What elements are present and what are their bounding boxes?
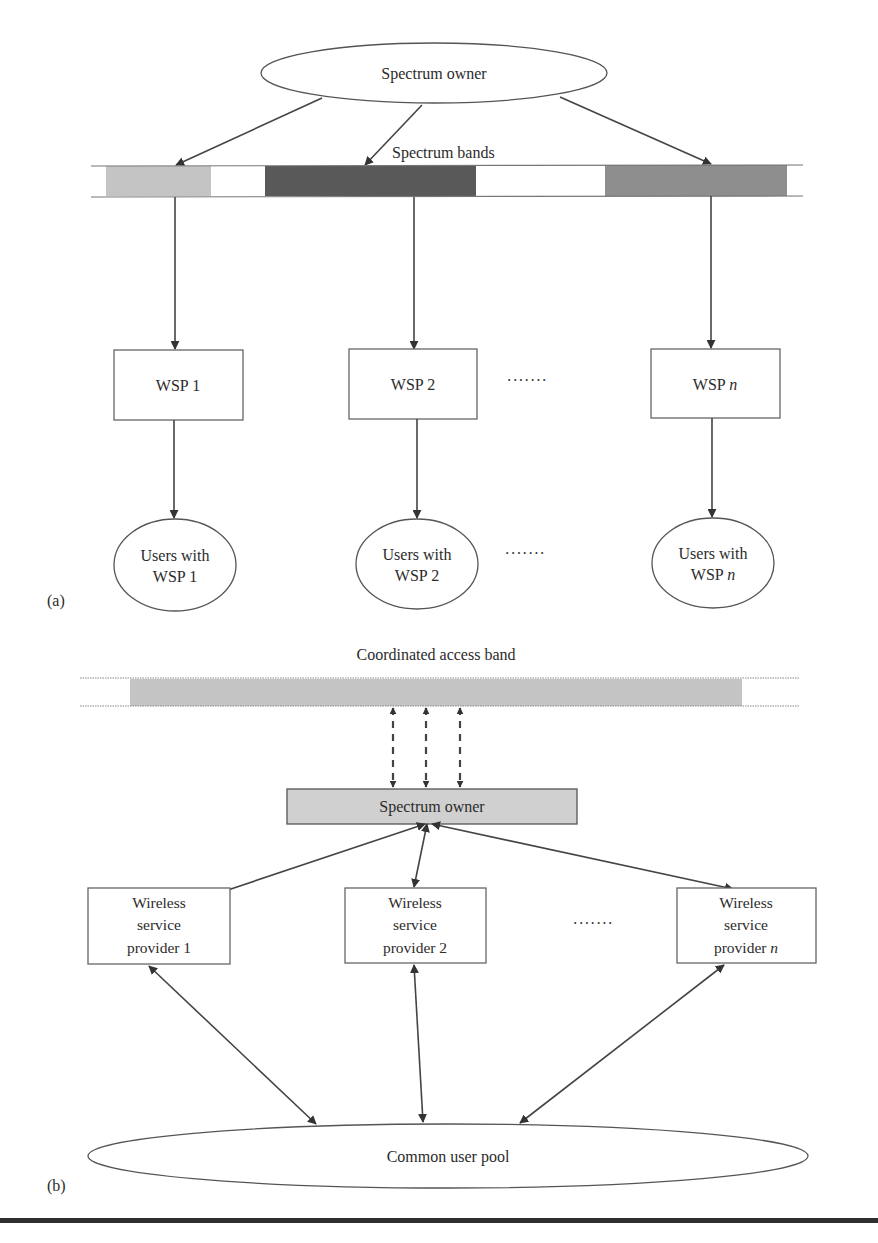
spectrum-owner-label-b: Spectrum owner <box>379 798 485 816</box>
svg-text:WSP 1: WSP 1 <box>153 568 197 585</box>
spectrum-bands-label: Spectrum bands <box>392 144 495 162</box>
ellipsis-wsp-a: ······· <box>507 372 548 389</box>
wsp-box-2: WSP 2 <box>349 349 477 419</box>
arrow-owner-to-band-n <box>560 97 711 164</box>
svg-text:WSP 2: WSP 2 <box>391 376 435 393</box>
svg-text:Wireless: Wireless <box>388 894 442 911</box>
bottom-rule <box>0 1218 878 1223</box>
arrow-owner-to-provider-n <box>432 824 733 889</box>
users-node-n: Users with WSP n <box>652 518 774 608</box>
ellipsis-users-a: ······· <box>505 545 546 562</box>
svg-text:provider 1: provider 1 <box>127 939 191 956</box>
svg-text:WSP 2: WSP 2 <box>395 567 439 584</box>
spectrum-band-strip <box>91 165 803 197</box>
svg-text:Users with: Users with <box>679 545 748 562</box>
panel-a: Spectrum owner Spectrum bands WSP 1 WSP … <box>47 43 803 611</box>
wsp-box-1: WSP 1 <box>114 350 243 420</box>
panel-a-label: (a) <box>47 592 65 610</box>
common-user-pool-node: Common user pool <box>88 1124 808 1188</box>
svg-text:Wireless: Wireless <box>132 894 186 911</box>
coordinated-access-band <box>80 678 800 706</box>
panel-b: Coordinated access band Spectrum owner W… <box>47 646 816 1195</box>
spectrum-owner-label-a: Spectrum owner <box>381 65 487 83</box>
panel-b-label: (b) <box>47 1177 66 1195</box>
coordinated-access-band-label: Coordinated access band <box>356 646 515 663</box>
spectrum-band-2 <box>265 166 476 196</box>
wireless-service-provider-box-1: Wireless service provider 1 <box>88 888 230 964</box>
arrow-owner-to-provider-2 <box>414 824 427 887</box>
spectrum-band-n <box>605 165 787 196</box>
svg-text:Wireless: Wireless <box>719 894 773 911</box>
arrow-providern-to-pool <box>520 965 724 1123</box>
arrow-provider2-to-pool <box>414 965 423 1122</box>
svg-text:WSP 1: WSP 1 <box>156 377 200 394</box>
spectrum-owner-node-b: Spectrum owner <box>287 789 577 824</box>
wireless-service-provider-box-n: Wireless service provider n <box>677 888 816 963</box>
users-node-1: Users with WSP 1 <box>114 519 236 611</box>
svg-text:provider n: provider n <box>714 939 778 956</box>
svg-text:service: service <box>137 916 181 933</box>
spectrum-band-1 <box>106 166 211 196</box>
arrow-owner-to-band-1 <box>176 98 322 165</box>
svg-text:WSP n: WSP n <box>693 376 737 393</box>
users-node-2: Users with WSP 2 <box>356 519 478 609</box>
ellipsis-providers-b: ······· <box>573 915 614 932</box>
svg-text:service: service <box>393 916 437 933</box>
svg-text:WSP n: WSP n <box>691 566 735 583</box>
svg-text:provider 2: provider 2 <box>383 939 447 956</box>
arrow-provider1-to-pool <box>149 966 316 1124</box>
spectrum-sharing-diagram: Spectrum owner Spectrum bands WSP 1 WSP … <box>0 0 878 1243</box>
wsp-box-n: WSP n <box>651 349 780 418</box>
spectrum-owner-node-a: Spectrum owner <box>261 43 607 103</box>
svg-text:Users with: Users with <box>141 547 210 564</box>
wireless-service-provider-box-2: Wireless service provider 2 <box>345 888 486 963</box>
svg-text:service: service <box>724 916 768 933</box>
common-user-pool-label: Common user pool <box>387 1148 510 1166</box>
svg-text:Users with: Users with <box>383 546 452 563</box>
